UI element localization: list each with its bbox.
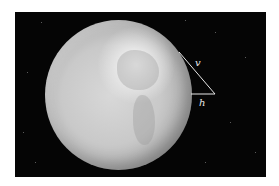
- label-h: h: [199, 98, 205, 108]
- label-v: v: [195, 58, 201, 68]
- tangent-triangle: [0, 0, 279, 186]
